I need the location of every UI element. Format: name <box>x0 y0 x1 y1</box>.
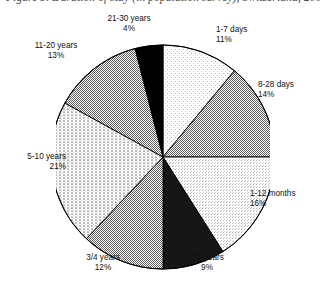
slice-label-name: 8-28 days <box>258 80 322 90</box>
slice-label-name: 21-30 years <box>93 14 165 24</box>
slice-label-1-12-months: 1-12 months 16% <box>250 189 322 209</box>
slice-label-percent: 4% <box>93 24 165 34</box>
slice-label-8-28-days: 8-28 days 14% <box>258 80 322 100</box>
slice-label-1-2-years: 1/2 years 9% <box>176 253 238 273</box>
slice-label-name: 1-7 days <box>216 25 272 35</box>
slice-label-5-10-years: 5-10 years 21% <box>4 152 66 172</box>
slice-label-3-4-years: 3/4 years 12% <box>72 253 134 273</box>
slice-label-percent: 13% <box>20 51 92 61</box>
figure-caption: Figure 3. Duration of stay (in populatio… <box>6 0 321 5</box>
slice-label-name: 3/4 years <box>72 253 134 263</box>
slice-label-1-7-days: 1-7 days 11% <box>216 25 272 45</box>
slice-label-percent: 21% <box>4 162 66 172</box>
slice-label-percent: 14% <box>258 90 322 100</box>
slice-label-name: 11-20 years <box>20 41 92 51</box>
slice-label-11-20-years: 11-20 years 13% <box>20 41 92 61</box>
slice-label-name: 1/2 years <box>176 253 238 263</box>
pie-chart-svg <box>56 44 270 270</box>
slice-label-percent: 11% <box>216 35 272 45</box>
slice-label-name: 1-12 months <box>250 189 322 199</box>
slice-label-percent: 12% <box>72 263 134 273</box>
slice-label-name: 5-10 years <box>4 152 66 162</box>
slice-label-percent: 9% <box>176 263 238 273</box>
slice-label-percent: 16% <box>250 199 322 209</box>
pie-chart-figure: Figure 3. Duration of stay (in populatio… <box>0 0 325 286</box>
slice-label-21-30-years: 21-30 years 4% <box>93 14 165 34</box>
